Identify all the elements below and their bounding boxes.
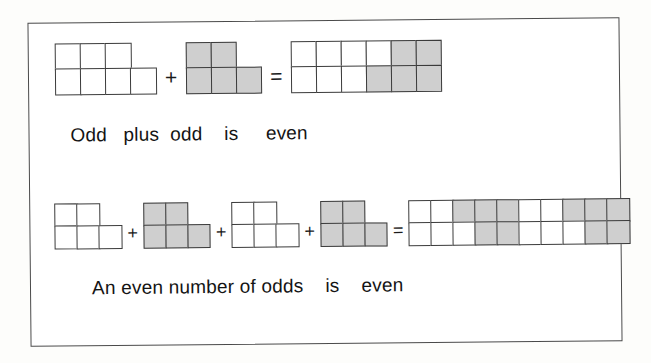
unit-square-white [453, 222, 477, 246]
unit-square-gray [607, 220, 631, 244]
empty-slot [276, 202, 298, 224]
equation-row-1: + = [28, 39, 649, 111]
unit-square-white [254, 224, 278, 248]
unit-square-gray [585, 199, 609, 223]
empty-slot [188, 203, 210, 225]
odd-shape-white-5-a [55, 204, 121, 249]
unit-square-gray [475, 200, 499, 224]
unit-square-white [541, 221, 565, 245]
unit-square-white [291, 66, 318, 93]
unit-square-gray [366, 66, 393, 93]
unit-square-gray [585, 221, 609, 245]
unit-square-gray [165, 225, 189, 249]
unit-square-white [409, 222, 433, 246]
unit-square-white [105, 43, 132, 70]
unit-square-gray [143, 225, 167, 249]
unit-square-gray [210, 67, 237, 94]
unit-square-gray [210, 42, 237, 69]
unit-square-white [55, 204, 79, 228]
unit-square-white [55, 69, 82, 96]
unit-square-white [315, 41, 342, 68]
unit-square-gray [563, 199, 587, 223]
unit-square-gray [416, 65, 443, 92]
plus-operator-2: + [216, 223, 227, 241]
unit-square-white [80, 68, 107, 95]
equals-operator: = [270, 65, 282, 86]
unit-square-white [340, 41, 367, 68]
unit-square-gray [165, 203, 189, 227]
unit-square-white [431, 222, 455, 246]
unit-square-white [232, 202, 256, 226]
unit-square-gray [342, 223, 366, 247]
plus-operator-3: + [304, 222, 315, 240]
unit-square-gray [185, 42, 212, 69]
unit-square-white [409, 200, 433, 224]
plus-operator: + [165, 66, 177, 87]
unit-square-white [105, 68, 132, 95]
equals-operator-row2: = [393, 221, 404, 239]
unit-square-gray [143, 203, 167, 227]
unit-square-white [519, 199, 543, 223]
unit-square-white [341, 66, 368, 93]
unit-square-white [431, 200, 455, 224]
unit-square-white [77, 203, 101, 227]
unit-square-white [365, 41, 392, 68]
unit-square-white [276, 224, 300, 248]
unit-square-gray [475, 222, 499, 246]
unit-square-gray [364, 223, 388, 247]
even-rectangle-20 [409, 199, 629, 245]
unit-square-white [563, 221, 587, 245]
odd-shape-gray-5-a [144, 203, 210, 248]
unit-square-gray [453, 200, 477, 224]
unit-square-gray [187, 224, 211, 248]
unit-square-gray [497, 221, 521, 245]
unit-square-gray [391, 65, 418, 92]
empty-slot [236, 43, 261, 68]
unit-square-gray [320, 201, 344, 225]
unit-square-white [519, 221, 543, 245]
unit-square-gray [342, 201, 366, 225]
empty-slot [365, 201, 387, 223]
unit-square-gray [415, 40, 442, 67]
unit-square-white [99, 225, 123, 249]
unit-square-white [77, 225, 101, 249]
empty-slot [99, 204, 121, 226]
equation-row-2: + + + = [29, 199, 648, 263]
unit-square-gray [185, 67, 212, 94]
unit-square-gray [497, 199, 521, 223]
unit-square-gray [235, 67, 262, 94]
odd-shape-white-5-b [232, 202, 298, 247]
unit-square-white [130, 68, 157, 95]
unit-square-gray [607, 198, 631, 222]
unit-square-white [55, 44, 82, 71]
odd-shape-gray-5-b [321, 201, 387, 246]
plus-operator-1: + [127, 224, 138, 242]
unit-square-white [80, 43, 107, 70]
unit-square-gray [390, 40, 417, 67]
even-rectangle-12 [291, 41, 441, 92]
unit-square-white [316, 66, 343, 93]
unit-square-white [254, 202, 278, 226]
unit-square-gray [320, 223, 344, 247]
empty-slot [131, 44, 156, 69]
caption-even-number-of-odds-is-even: An even number of odds is even [30, 272, 651, 300]
unit-square-white [232, 224, 256, 248]
caption-odd-plus-odd-is-even: Odd plus odd is even [28, 119, 651, 147]
unit-square-white [290, 41, 317, 68]
figure-content: + = Odd plus odd is even + + + = An even… [27, 17, 622, 347]
unit-square-white [55, 226, 79, 250]
odd-shape-white-7 [56, 44, 156, 95]
odd-shape-gray-5 [186, 43, 261, 94]
unit-square-white [541, 199, 565, 223]
